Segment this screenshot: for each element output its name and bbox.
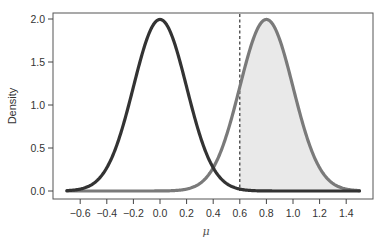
x-tick-label: 0.6 xyxy=(232,207,247,219)
x-tick-label: 0.8 xyxy=(259,207,274,219)
x-tick-label: 0.0 xyxy=(153,207,168,219)
x-tick-label: 1.4 xyxy=(339,207,354,219)
shaded-power-region xyxy=(240,19,360,191)
x-tick-label: −0.2 xyxy=(123,207,144,219)
y-tick-label: 2.0 xyxy=(30,13,45,25)
shaded-area xyxy=(240,19,360,191)
x-tick-label: 0.2 xyxy=(179,207,194,219)
density-chart: −0.6−0.4−0.20.00.20.40.60.81.01.21.4 0.0… xyxy=(0,0,388,242)
x-axis: −0.6−0.4−0.20.00.20.40.60.81.01.21.4 xyxy=(70,199,354,219)
x-tick-label: 1.2 xyxy=(312,207,327,219)
x-tick-label: 1.0 xyxy=(286,207,301,219)
x-axis-label: μ xyxy=(202,225,209,238)
y-tick-label: 1.5 xyxy=(30,56,45,68)
y-tick-label: 1.0 xyxy=(30,99,45,111)
y-axis-label: Density xyxy=(6,87,18,124)
x-tick-label: −0.6 xyxy=(70,207,91,219)
y-axis: 0.00.51.01.52.0 xyxy=(30,13,53,197)
x-tick-label: −0.4 xyxy=(96,207,117,219)
y-tick-label: 0.0 xyxy=(30,185,45,197)
y-tick-label: 0.5 xyxy=(30,142,45,154)
x-tick-label: 0.4 xyxy=(206,207,221,219)
